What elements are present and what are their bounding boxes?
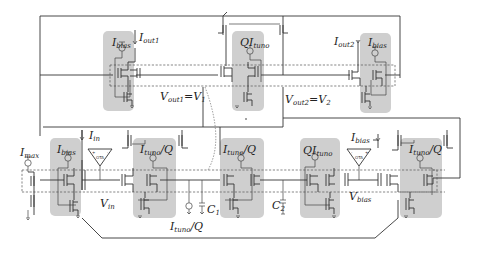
label-iout1: Iout1 [139,28,159,45]
label-ibias-bottom-right: Ibias [351,128,370,145]
label-vbias: Vbias [349,187,371,204]
label-vout1: Vout1=V1 [160,87,206,104]
label-vout2: Vout2=V2 [285,90,331,107]
dotted-curve [205,87,216,170]
ota-right-name: OTA [355,155,363,160]
label-ituno-q-1: Ituno/Q [140,140,173,157]
ota-left-plus: + [92,150,95,155]
label-c1: C1 [207,200,220,217]
label-ituno-q-source: Ituno/Q [170,217,203,234]
shaded-blocks [50,31,442,218]
label-ibias-top-right: Ibias [368,33,387,50]
current-source-c1 [186,180,205,214]
label-ibias-bottom-left: Ibias [57,140,76,157]
ota-left-minus: - [107,150,108,155]
imax-cell [25,157,34,220]
label-ibias-top-left: Ibias [112,33,131,50]
ota-left-name: OTA [96,155,104,160]
label-iout2: Iout2 [334,32,354,49]
label-vin: Vin [100,194,115,211]
ota-right-plus: - [351,150,352,155]
label-ituno-q-2: Ituno/Q [223,140,256,157]
label-qituno-top: QItuno [240,33,269,50]
label-imax: Imax [20,143,39,160]
circuit-schematic [0,0,478,262]
label-qituno-bottom: QItuno [303,141,332,158]
ota-right-minus: + [365,150,368,155]
label-ituno-q-3: Ituno/Q [409,140,442,157]
label-iin: Iin [89,126,100,143]
label-c2: C2 [272,196,285,213]
